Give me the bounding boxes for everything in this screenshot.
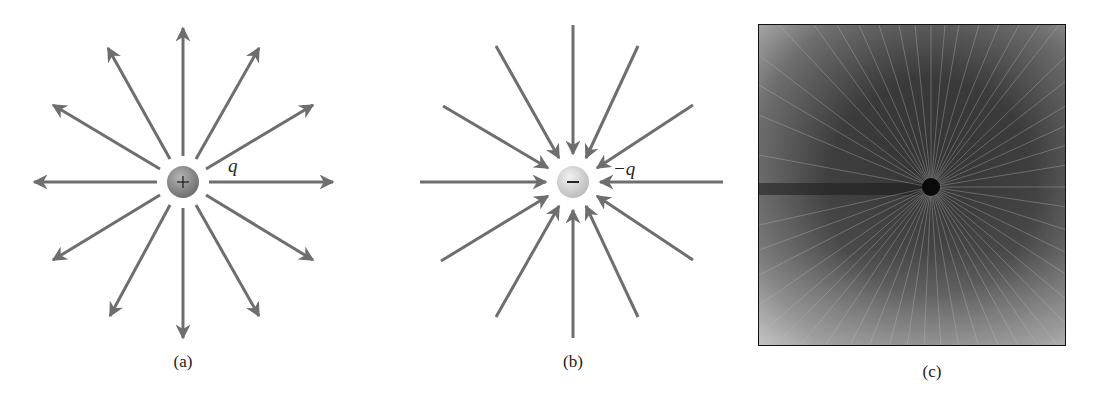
radial-pattern-image [759,25,1066,346]
caption-b: (b) [563,352,583,372]
charge-label-neg-q: −q [613,158,635,180]
panel-b-negative-charge-field [390,0,750,396]
caption-a: (a) [174,352,193,372]
caption-c: (c) [923,362,942,382]
panel-a-positive-charge-field [0,0,370,396]
panel-c-field-photograph [758,24,1066,346]
charged-point [922,178,940,196]
charge-label-q: q [228,155,238,177]
